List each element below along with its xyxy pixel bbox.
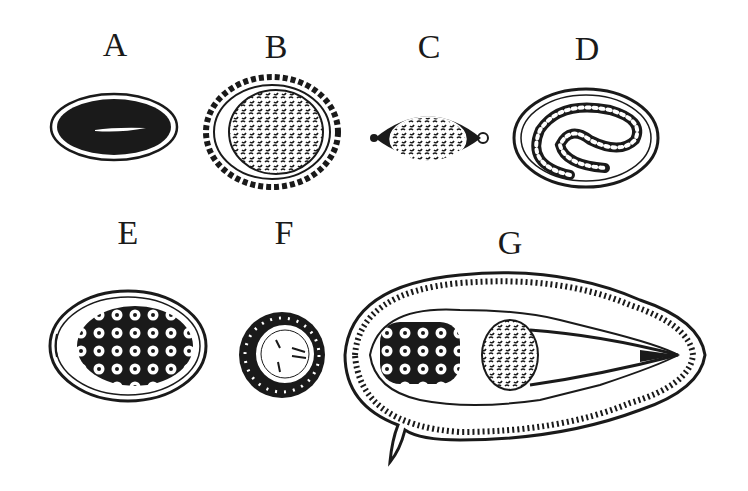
egg-e-icon bbox=[50, 291, 206, 401]
egg-d-icon bbox=[514, 89, 658, 187]
egg-c-icon bbox=[370, 117, 488, 162]
eggs-illustration bbox=[0, 0, 748, 491]
egg-g-icon bbox=[345, 273, 705, 462]
egg-a-icon bbox=[51, 94, 177, 160]
egg-b-icon bbox=[206, 77, 338, 187]
egg-f-icon bbox=[239, 312, 325, 398]
